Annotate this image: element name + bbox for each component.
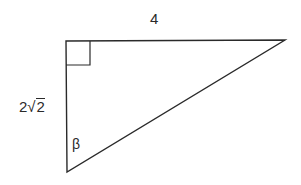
angle-beta-label: β: [72, 137, 80, 151]
left-side-radicand: 2: [36, 98, 45, 115]
radical-sign: √: [27, 99, 35, 114]
left-side-length-label: 2√2: [19, 98, 45, 115]
triangle-figure: [0, 0, 301, 185]
right-angle-marker: [66, 41, 90, 65]
triangle-outline: [66, 40, 285, 172]
right-triangle-diagram: 4 2√2 β: [0, 0, 301, 185]
top-side-length-label: 4: [150, 11, 158, 26]
left-side-coefficient: 2: [19, 98, 27, 115]
